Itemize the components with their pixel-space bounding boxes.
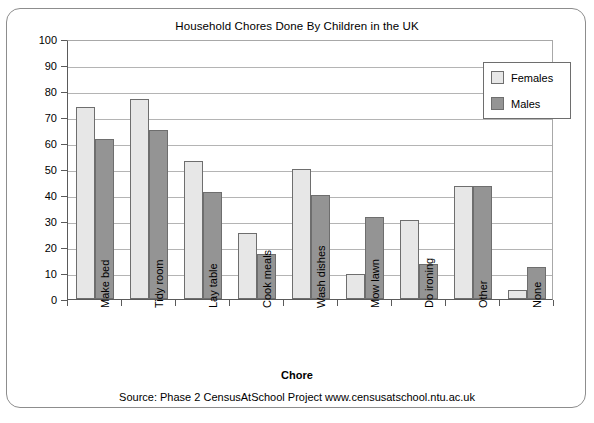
y-axis-tick-label: 100: [13, 34, 57, 46]
legend-swatch-females: [491, 71, 504, 84]
x-axis-tick-mark: [121, 300, 122, 306]
bar: [400, 220, 419, 299]
x-axis-tick-label: Other: [477, 280, 489, 308]
x-axis-tick-label: Make bed: [99, 260, 111, 308]
plot-area: [67, 40, 553, 300]
chart-figure: Household Chores Done By Children in the…: [0, 0, 594, 423]
legend-item-males: Males: [491, 97, 540, 110]
y-axis-tick-label: 60: [13, 138, 57, 150]
x-axis-tick-mark: [553, 300, 554, 306]
bar: [76, 107, 95, 299]
y-axis-tick-label: 50: [13, 164, 57, 176]
x-axis-tick-label: Do ironing: [423, 258, 435, 308]
x-axis-tick-label: Tidy room: [153, 260, 165, 309]
y-axis-tick-label: 0: [13, 294, 57, 306]
bar: [454, 186, 473, 299]
x-axis-tick-mark: [445, 300, 446, 306]
x-axis-title: Chore: [0, 369, 594, 381]
bar: [508, 290, 527, 299]
x-axis-tick-mark: [67, 300, 68, 306]
x-axis-tick-mark: [391, 300, 392, 306]
legend-item-females: Females: [491, 71, 553, 84]
y-axis-tick-label: 30: [13, 216, 57, 228]
legend-label-females: Females: [511, 72, 553, 84]
y-axis-tick-label: 70: [13, 112, 57, 124]
x-axis-tick-mark: [499, 300, 500, 306]
x-axis-tick-label: None: [531, 282, 543, 308]
y-axis-tick-label: 20: [13, 242, 57, 254]
x-axis-tick-label: Mow lawn: [369, 259, 381, 308]
x-axis-tick-mark: [283, 300, 284, 306]
y-axis-tick-label: 80: [13, 86, 57, 98]
x-axis-tick-mark: [337, 300, 338, 306]
x-axis-tick-label: Wash dishes: [315, 245, 327, 308]
bar: [184, 161, 203, 299]
bar: [292, 169, 311, 299]
bar: [238, 233, 257, 299]
gridline: [68, 67, 552, 68]
x-axis-tick-mark: [175, 300, 176, 306]
bar: [130, 99, 149, 299]
source-note: Source: Phase 2 CensusAtSchool Project w…: [0, 391, 594, 403]
y-axis-tick-label: 90: [13, 60, 57, 72]
y-axis-tick-label: 10: [13, 268, 57, 280]
gridline: [68, 93, 552, 94]
legend-label-males: Males: [511, 98, 540, 110]
bar: [346, 274, 365, 299]
x-axis-tick-mark: [229, 300, 230, 306]
x-axis-tick-label: Lay table: [207, 263, 219, 308]
y-axis-tick-label: 40: [13, 190, 57, 202]
chart-title: Household Chores Done By Children in the…: [0, 20, 594, 32]
chart-legend: Females Males: [483, 62, 571, 119]
legend-swatch-males: [491, 97, 504, 110]
x-axis-tick-label: Cook meals: [261, 250, 273, 308]
